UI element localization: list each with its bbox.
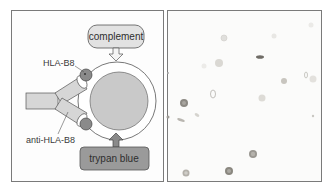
antigen-dot-bottom — [80, 118, 92, 130]
trypan-blue-box: trypan blue — [80, 147, 149, 170]
complement-arrow-icon — [109, 48, 123, 61]
trypan-blue-label: trypan blue — [89, 153, 139, 164]
antibody-label: anti-HLA-B8 — [26, 135, 75, 145]
figure-canvas: complement HLA-B8 anti-HLA-B8 trypan blu… — [0, 0, 331, 194]
antigen-label: HLA-B8 — [43, 58, 75, 68]
complement-box: complement — [88, 25, 144, 48]
cell-nucleus — [90, 72, 148, 130]
complement-label: complement — [89, 31, 144, 42]
micrograph-cells — [167, 23, 317, 177]
